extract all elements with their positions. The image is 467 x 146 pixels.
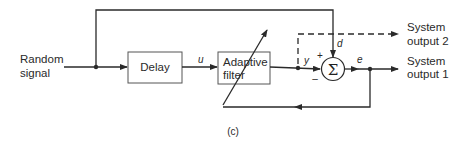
y-label: y — [303, 55, 310, 66]
output2-label-line1: System — [407, 21, 445, 33]
y-signal-line — [270, 67, 320, 69]
y-junction-dot — [296, 66, 300, 70]
input-label-line2: signal — [20, 67, 50, 79]
sigma-symbol: Σ — [328, 61, 339, 79]
adaptive-filter-label-line2: filter — [223, 69, 245, 81]
e-label: e — [357, 54, 363, 65]
block-diagram: Random signal Delay u Adaptive filter y … — [0, 0, 467, 146]
output1-label-line1: System — [407, 55, 445, 67]
d-label: d — [337, 38, 343, 49]
output2-label-line2: output 2 — [407, 35, 449, 47]
plus-sign: + — [317, 50, 323, 61]
minus-sign: – — [312, 73, 318, 84]
figure-caption: (c) — [227, 126, 239, 137]
u-label: u — [198, 54, 204, 65]
feedback-arrowhead — [294, 104, 302, 110]
delay-label: Delay — [140, 61, 170, 73]
output1-label-line2: output 1 — [407, 68, 449, 80]
output2-dashed-line — [298, 34, 398, 64]
input-label-line1: Random — [20, 53, 63, 65]
